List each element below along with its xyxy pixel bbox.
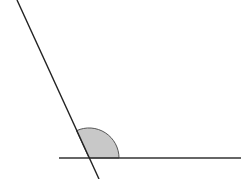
slanted-line	[17, 0, 99, 179]
angle-diagram	[0, 0, 241, 179]
